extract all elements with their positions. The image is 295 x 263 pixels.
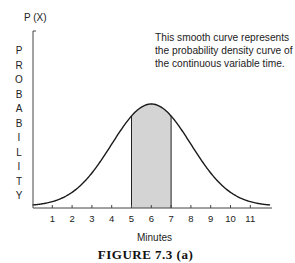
x-tick-label: 5	[124, 213, 140, 224]
figure-caption: FIGURE 7.3 (a)	[0, 247, 291, 263]
ylabel-letter: B	[14, 117, 24, 132]
ylabel-letter: I	[14, 131, 24, 146]
y-axis-label: P R O B A B I L I T Y	[14, 44, 24, 204]
ylabel-letter: Y	[14, 189, 24, 204]
x-tick-label: 8	[183, 213, 199, 224]
shaded-region-5-to-7	[132, 104, 172, 208]
ylabel-letter: A	[14, 102, 24, 117]
x-tick-label: 4	[104, 213, 120, 224]
ylabel-letter: L	[14, 146, 24, 161]
ylabel-letter: I	[14, 160, 24, 175]
x-tick-label: 9	[203, 213, 219, 224]
x-tick-label: 2	[64, 213, 80, 224]
x-tick-label: 1	[44, 213, 60, 224]
ylabel-letter: P	[14, 44, 24, 59]
x-tick-label: 7	[163, 213, 179, 224]
ylabel-letter: R	[14, 59, 24, 74]
annotation-line: This smooth curve represents	[155, 31, 295, 44]
x-tick-label: 6	[143, 213, 159, 224]
x-axis-label: Minutes	[0, 232, 291, 243]
x-tick-label: 10	[223, 213, 239, 224]
ylabel-letter: B	[14, 88, 24, 103]
annotation-line: the probability density curve of	[155, 44, 295, 57]
y-axis-title: P (X)	[24, 12, 47, 23]
annotation-text: This smooth curve represents the probabi…	[155, 31, 295, 70]
x-tick-label: 3	[84, 213, 100, 224]
ylabel-letter: O	[14, 73, 24, 88]
x-tick-label: 11	[242, 213, 258, 224]
annotation-line: the continuous variable time.	[155, 57, 295, 70]
ylabel-letter: T	[14, 175, 24, 190]
